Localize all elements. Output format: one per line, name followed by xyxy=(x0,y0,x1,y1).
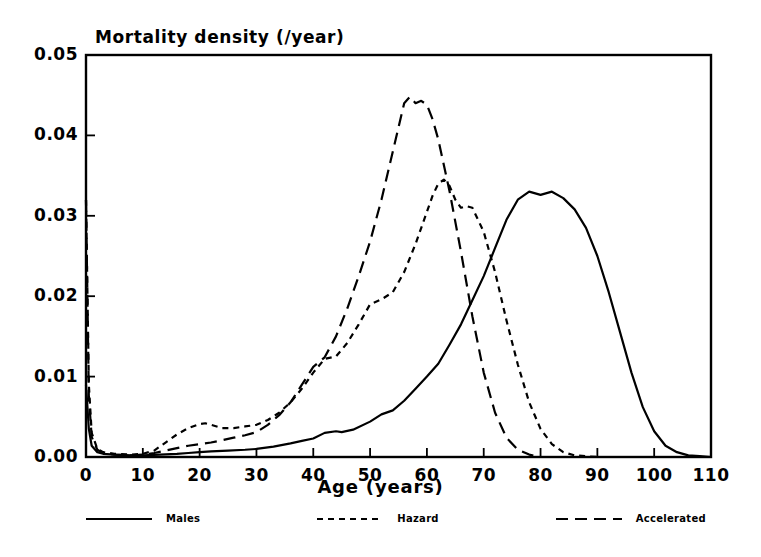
axes xyxy=(86,55,711,457)
x-axis-title: Age (years) xyxy=(0,476,761,497)
legend-label: Hazard xyxy=(397,513,439,524)
legend-label: Accelerated xyxy=(636,513,706,524)
y-tick-label: 0.05 xyxy=(6,44,78,64)
series-line-males xyxy=(86,192,711,457)
chart-legend: MalesHazardAccelerated xyxy=(86,513,706,524)
legend-label: Males xyxy=(166,513,200,524)
series-line-hazard xyxy=(86,180,597,457)
data-series xyxy=(86,97,711,457)
legend-entry-accelerated: Accelerated xyxy=(556,513,706,524)
mortality-density-chart: Mortality density (/year) 0.000.010.020.… xyxy=(0,0,761,557)
y-tick-label: 0.04 xyxy=(6,124,78,144)
plot-frame xyxy=(86,55,711,457)
tick-marks xyxy=(86,55,711,457)
legend-swatch-solid xyxy=(86,514,152,524)
legend-swatch-short-dashed xyxy=(317,514,383,524)
y-tick-label: 0.01 xyxy=(6,366,78,386)
series-line-accelerated xyxy=(86,97,541,457)
y-tick-label: 0.03 xyxy=(6,205,78,225)
legend-swatch-long-dashed xyxy=(556,514,622,524)
y-tick-label: 0.00 xyxy=(6,446,78,466)
legend-entry-males: Males xyxy=(86,513,200,524)
legend-entry-hazard: Hazard xyxy=(317,513,439,524)
y-tick-label: 0.02 xyxy=(6,285,78,305)
